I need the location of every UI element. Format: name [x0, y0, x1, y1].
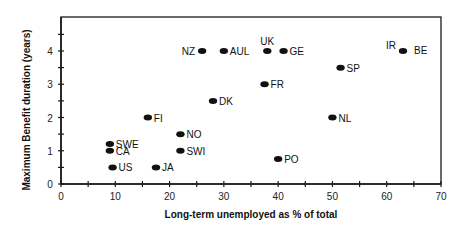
data-point-label: GE	[290, 46, 305, 57]
data-point-label: FI	[154, 113, 163, 124]
data-point-label: SWI	[186, 146, 205, 157]
data-point-marker	[144, 115, 152, 121]
x-tick-label: 20	[164, 191, 176, 202]
data-point-marker	[263, 48, 271, 54]
data-point-label: FR	[271, 79, 284, 90]
data-point-marker	[209, 98, 217, 104]
data-point-label: US	[119, 162, 133, 173]
data-point-label: AUL	[230, 46, 250, 57]
data-point-marker	[152, 164, 160, 170]
data-point-marker	[220, 48, 228, 54]
data-point-marker	[106, 148, 114, 154]
scatter-chart: 010203040506070 01234 NZAULUKGEIRBESPFRD…	[0, 0, 469, 233]
x-tick-label: 10	[110, 191, 122, 202]
x-tick-label: 70	[435, 191, 447, 202]
data-point-marker	[260, 81, 268, 87]
data-point-marker	[336, 65, 344, 71]
data-point-marker	[176, 131, 184, 137]
y-axis: 01234	[47, 17, 64, 190]
x-tick-label: 0	[58, 191, 64, 202]
data-point-marker	[198, 48, 206, 54]
data-point-marker	[274, 156, 282, 162]
y-axis-title: Maximum Benefit duration (years)	[21, 29, 32, 190]
x-tick-label: 60	[381, 191, 393, 202]
x-tick-label: 40	[273, 191, 285, 202]
data-points: NZAULUKGEIRBESPFRDKFINLNOSWECASWIPOUSJA	[106, 36, 428, 173]
data-point-marker	[399, 48, 407, 54]
data-point-label: PO	[284, 154, 299, 165]
y-tick-label: 0	[47, 179, 53, 190]
data-point-marker	[279, 48, 287, 54]
data-point-label: UK	[260, 36, 274, 47]
data-point-label: NZ	[182, 46, 195, 57]
data-point-label: NL	[338, 113, 351, 124]
data-point-marker	[328, 115, 336, 121]
data-point-marker	[106, 141, 114, 147]
y-tick-label: 4	[47, 46, 53, 57]
y-tick-label: 1	[47, 146, 53, 157]
x-axis-title: Long-term unemployed as % of total	[165, 209, 338, 220]
data-point-label: JA	[162, 162, 174, 173]
data-point-label: IR	[386, 40, 396, 51]
y-tick-label: 2	[47, 113, 53, 124]
data-point-label: BE	[414, 45, 428, 56]
data-point-marker	[176, 148, 184, 154]
data-point-label: SP	[347, 63, 361, 74]
data-point-label: CA	[116, 146, 130, 157]
x-axis: 010203040506070	[58, 181, 447, 202]
x-tick-label: 30	[218, 191, 230, 202]
data-point-marker	[108, 164, 116, 170]
plot-frame	[61, 17, 441, 184]
y-tick-label: 3	[47, 79, 53, 90]
data-point-label: NO	[186, 129, 201, 140]
data-point-label: DK	[219, 96, 233, 107]
x-tick-label: 50	[327, 191, 339, 202]
